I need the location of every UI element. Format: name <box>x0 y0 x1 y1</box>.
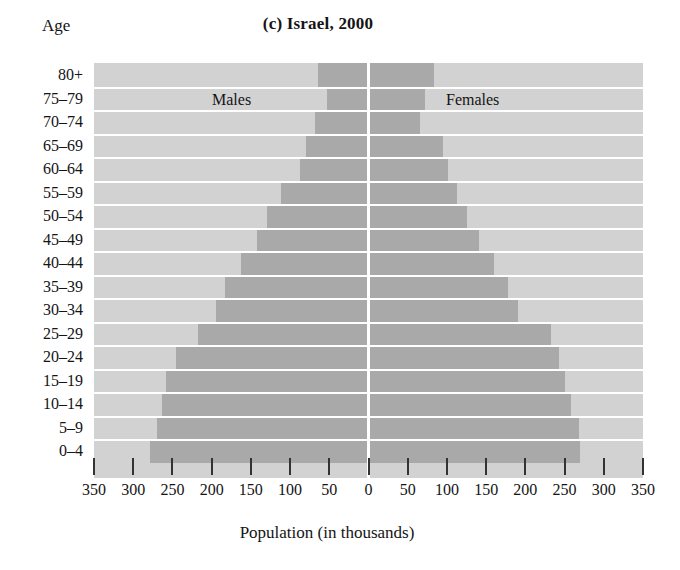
bar-male <box>157 418 369 440</box>
x-axis-tick-marks <box>94 458 643 478</box>
x-axis-tick-label: 200 <box>513 481 537 499</box>
age-tick-label: 80+ <box>0 63 88 87</box>
series-caption-females: Females <box>446 91 499 109</box>
bar-female <box>369 394 571 416</box>
x-axis-tick-label: 50 <box>400 481 416 499</box>
x-axis-tick-label: 100 <box>435 481 459 499</box>
age-tick-label: 75–79 <box>0 87 88 111</box>
x-axis-tick-label: 50 <box>321 481 337 499</box>
bar-male <box>306 136 369 158</box>
bar-female <box>369 112 421 134</box>
bar-male <box>216 300 369 322</box>
x-axis-tick-mark <box>524 458 526 475</box>
age-tick-label: 20–24 <box>0 345 88 369</box>
bar-female <box>369 347 560 369</box>
x-axis-title-text: Population (in thousands) <box>240 523 415 542</box>
bar-male <box>241 253 368 275</box>
center-axis-line <box>367 63 370 478</box>
bar-male <box>176 347 369 369</box>
x-axis-tick-mark <box>603 458 605 475</box>
x-axis-tick-mark <box>368 458 370 475</box>
series-caption-males: Males <box>212 91 251 109</box>
bar-female <box>369 371 565 393</box>
bar-female <box>369 300 519 322</box>
x-axis-tick-mark <box>211 458 213 475</box>
bar-male <box>257 230 368 252</box>
x-axis-tick-mark <box>446 458 448 475</box>
chart-title-text: (c) Israel, 2000 <box>263 14 373 33</box>
x-axis-tick-label: 250 <box>553 481 577 499</box>
x-axis-tick-mark <box>642 458 644 475</box>
bar-male <box>318 63 368 87</box>
age-tick-label: 65–69 <box>0 134 88 158</box>
x-axis-tick-label: 0 <box>365 481 373 499</box>
x-axis-tick-mark <box>132 458 134 475</box>
bar-female <box>369 159 448 181</box>
x-axis-tick-label: 100 <box>278 481 302 499</box>
bar-male <box>327 89 369 111</box>
x-axis-tick-label: 200 <box>200 481 224 499</box>
x-axis-tick-mark <box>250 458 252 475</box>
age-tick-label: 25–29 <box>0 322 88 346</box>
bar-female <box>369 206 467 228</box>
age-tick-label: 55–59 <box>0 181 88 205</box>
bar-female <box>369 63 435 87</box>
x-axis-tick-mark <box>171 458 173 475</box>
age-tick-label: 35–39 <box>0 275 88 299</box>
age-tick-label: 60–64 <box>0 157 88 181</box>
bar-male <box>300 159 368 181</box>
age-tick-label: 0–4 <box>0 439 88 463</box>
age-axis-title: Age <box>42 16 70 36</box>
x-axis-tick-mark <box>289 458 291 475</box>
x-axis-tick-label: 300 <box>592 481 616 499</box>
x-axis-tick-label: 250 <box>160 481 184 499</box>
bar-female <box>369 89 425 111</box>
bar-female <box>369 136 444 158</box>
age-tick-label: 70–74 <box>0 110 88 134</box>
x-axis-tick-mark <box>93 458 95 475</box>
x-axis-tick-label: 350 <box>631 481 655 499</box>
bar-female <box>369 324 552 346</box>
bar-female <box>369 418 579 440</box>
bar-female <box>369 230 480 252</box>
bar-female <box>369 183 458 205</box>
x-axis-tick-mark <box>407 458 409 475</box>
bar-male <box>267 206 368 228</box>
bar-male <box>225 277 369 299</box>
x-axis-tick-label: 350 <box>82 481 106 499</box>
age-tick-label: 10–14 <box>0 392 88 416</box>
x-axis-tick-mark <box>564 458 566 475</box>
plot-area: Males Females <box>94 63 643 478</box>
age-tick-label: 30–34 <box>0 298 88 322</box>
bar-female <box>369 277 509 299</box>
bar-male <box>315 112 368 134</box>
x-axis-tick-label: 150 <box>239 481 263 499</box>
bar-male <box>166 371 368 393</box>
x-axis-tick-label: 150 <box>474 481 498 499</box>
age-tick-label: 40–44 <box>0 251 88 275</box>
x-axis-tick-mark <box>328 458 330 475</box>
age-tick-label: 15–19 <box>0 369 88 393</box>
population-pyramid-figure: (c) Israel, 2000 Age 80+75–7970–7465–696… <box>0 0 680 570</box>
x-axis-tick-mark <box>485 458 487 475</box>
bar-male <box>198 324 369 346</box>
chart-title: (c) Israel, 2000 <box>0 14 680 34</box>
age-tick-label: 45–49 <box>0 228 88 252</box>
bar-female <box>369 253 494 275</box>
x-axis-tick-label-list: 3503002502001501005005010015020025030035… <box>94 481 643 507</box>
x-axis-title: Population (in thousands) <box>0 523 680 543</box>
bar-male <box>281 183 369 205</box>
bar-male <box>162 394 368 416</box>
age-tick-label: 5–9 <box>0 416 88 440</box>
age-tick-label-list: 80+75–7970–7465–6960–6455–5950–5445–4940… <box>0 63 88 478</box>
x-axis-tick-label: 300 <box>121 481 145 499</box>
age-tick-label: 50–54 <box>0 204 88 228</box>
